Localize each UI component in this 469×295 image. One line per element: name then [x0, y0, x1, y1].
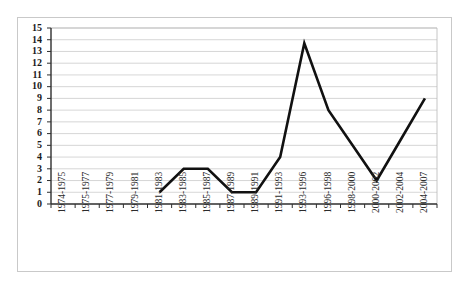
y-tick-label: 13 — [32, 45, 42, 56]
y-tick-label: 6 — [37, 127, 42, 138]
x-tick-label: 1993-1996 — [298, 172, 308, 213]
x-tick-label: 1998-2000 — [347, 172, 357, 213]
y-tick-label: 11 — [33, 69, 42, 80]
x-tick-label: 1977-1979 — [105, 172, 115, 213]
y-tick-label: 10 — [32, 80, 42, 91]
x-tick-label: 1979-1981 — [130, 172, 140, 213]
y-tick-label: 0 — [37, 198, 42, 209]
x-tick-label: 1974-1975 — [57, 172, 67, 213]
y-tick-label: 1 — [37, 186, 42, 197]
x-tick-label: 1991-1993 — [274, 172, 284, 213]
x-tick-label: 1989-1991 — [250, 172, 260, 213]
x-tick-label: 2002-2004 — [395, 172, 405, 213]
y-tick-label: 7 — [37, 116, 42, 127]
x-tick-label: 2000-2002 — [371, 172, 381, 213]
y-tick-label: 9 — [37, 92, 42, 103]
chart-plot-area: 0123456789101112131415 1974-19751975-197… — [0, 0, 469, 295]
x-tick-label: 1985-1987 — [202, 172, 212, 213]
x-tick-label: 2004-2007 — [419, 172, 429, 213]
y-tick-label: 15 — [32, 22, 42, 33]
y-axis-tick-labels: 0123456789101112131415 — [32, 22, 42, 209]
x-tick-label: 1996-1998 — [323, 172, 333, 213]
x-tick-label: 1981-1983 — [154, 172, 164, 213]
series-line-0 — [160, 43, 425, 192]
y-tick-label: 8 — [37, 104, 42, 115]
y-tick-label: 3 — [37, 163, 42, 174]
y-tick-label: 14 — [32, 34, 42, 45]
data-series-line — [160, 43, 425, 192]
y-tick-label: 4 — [37, 151, 42, 162]
x-tick-label: 1987-1989 — [226, 172, 236, 213]
y-tick-label: 12 — [32, 57, 42, 68]
x-tick-label: 1983-1985 — [178, 172, 188, 213]
y-tick-label: 2 — [37, 174, 42, 185]
y-tick-label: 5 — [37, 139, 42, 150]
x-tick-label: 1975-1977 — [81, 172, 91, 213]
gridlines — [51, 28, 437, 192]
line-chart-figure: 0123456789101112131415 1974-19751975-197… — [0, 0, 469, 295]
